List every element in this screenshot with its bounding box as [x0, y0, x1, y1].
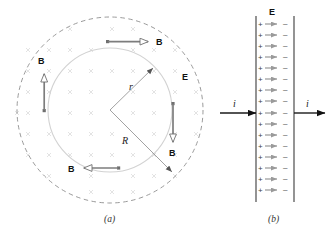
plus-sign: +	[258, 142, 263, 151]
label-b-left: B	[38, 56, 45, 66]
minus-sign: –	[283, 163, 288, 172]
plus-sign: +	[258, 31, 263, 40]
plus-sign: +	[258, 97, 263, 106]
label-current-right: i	[306, 98, 309, 109]
minus-sign: –	[283, 174, 288, 183]
label-b-top: B	[156, 37, 163, 47]
label-current-left: i	[233, 98, 236, 109]
physics-figure: B B B B E r R (a) + – + – + – + – + – +	[0, 0, 330, 237]
minus-sign: –	[283, 19, 288, 28]
label-radius-r: r	[129, 81, 133, 92]
minus-sign: –	[283, 96, 288, 105]
plus-sign: +	[258, 175, 263, 184]
label-b-bottom: B	[68, 164, 75, 174]
label-b-right: B	[169, 148, 176, 158]
plus-sign: +	[258, 109, 263, 118]
plus-sign: +	[258, 153, 263, 162]
minus-sign: –	[283, 108, 288, 117]
minus-sign: –	[283, 152, 288, 161]
caption-panel-a: (a)	[104, 214, 115, 225]
minus-sign: –	[283, 41, 288, 50]
figure-root: B B B B E r R (a) + – + – + – + – + – +	[0, 0, 330, 237]
minus-sign: –	[283, 119, 288, 128]
plus-sign: +	[258, 86, 263, 95]
plus-sign: +	[258, 64, 263, 73]
minus-sign: –	[283, 52, 288, 61]
minus-sign: –	[283, 130, 288, 139]
label-e-panel-b: E	[269, 7, 275, 17]
minus-sign: –	[283, 63, 288, 72]
plus-sign: +	[258, 75, 263, 84]
plus-sign: +	[258, 164, 263, 173]
plus-sign: +	[258, 120, 263, 129]
caption-panel-b: (b)	[268, 214, 279, 225]
plus-sign: +	[258, 20, 263, 29]
plus-sign: +	[258, 131, 263, 140]
minus-sign: –	[283, 85, 288, 94]
plus-sign: +	[258, 186, 263, 195]
minus-sign: –	[283, 141, 288, 150]
label-radius-R: R	[121, 135, 128, 146]
label-e-panel-a: E	[182, 72, 188, 82]
minus-sign: –	[283, 185, 288, 194]
minus-sign: –	[283, 30, 288, 39]
plus-sign: +	[258, 53, 263, 62]
minus-sign: –	[283, 74, 288, 83]
plus-sign: +	[258, 42, 263, 51]
